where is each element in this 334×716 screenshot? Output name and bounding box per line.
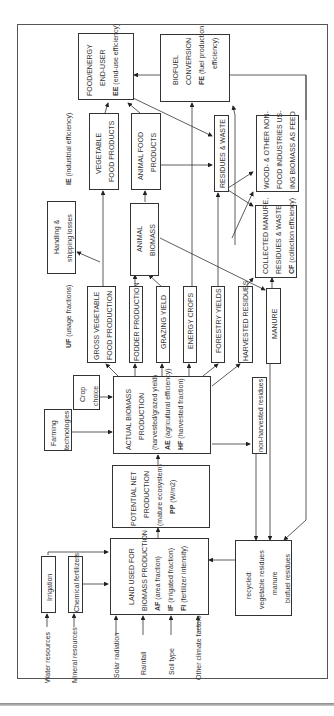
label: BIOMASS [146,224,159,256]
node-handling-losses: Handling & shipping losses [47,201,76,274]
node-manure: MANURE [266,288,281,364]
label: HARVESTED RESIDUES [239,281,252,361]
label: recycled: [242,550,255,609]
code: EE [112,87,119,96]
text: (industrial efficiency) [65,113,72,177]
input-other-climate-factors: Other climate factors [192,615,205,680]
label: RESIDUES & WASTE [272,198,285,274]
label: CONVERSION [182,26,195,85]
node-animal-food-products: ANIMAL FOOD PRODUCTS [131,113,161,190]
node-farming-technologies: Farming technologies [44,409,72,451]
label: COLLECTED MANURE, [259,198,272,274]
label: PRODUCTS [147,132,160,180]
node-crop-choice: Crop choice [73,375,100,410]
label: FOOD PRODUCTS [105,121,118,182]
label: FORESTRY YIELDS [212,288,225,353]
label: manure [268,550,281,609]
label: MANURE [268,309,281,339]
code: FE [198,76,205,85]
node-wood-industries: WOOD- & OTHER NON- FOOD INDUSTRIES US- I… [256,115,299,192]
label: WOOD- & OTHER NON- [260,110,273,189]
param: efficiency) [208,26,221,85]
code: UF [65,339,72,348]
param: (harvested fraction) [177,378,184,438]
label: ANIMAL [133,224,146,256]
param: (fuel production [198,26,205,74]
node-actual-biomass: ACTUAL BIOMASS PRODUCTION (harvested/gra… [113,376,211,454]
node-grazing-yield: GRAZING YIELD [156,286,170,363]
param: (collection efficiency) [288,198,295,263]
node-vegetable-food-products: VEGETABLE FOOD PRODUCTS [89,113,119,190]
label: shipping losses [63,214,76,262]
industrial-efficiency-label: IE (industrial efficiency) [62,113,75,185]
node-residues-waste: RESIDUES & WASTE [214,115,229,192]
node-energy-crops: ENERGY CROPS [183,286,197,363]
code: IF [167,605,174,611]
label: Chemical fertilizers [70,553,83,612]
input-mineral-resources: Mineral resources [68,627,81,683]
param: (irrigated fraction) [167,548,174,603]
code: AE [164,440,171,450]
label: Irrigation [43,574,56,601]
label: PRODUCTION [135,368,148,450]
label: FOOD INDUSTRIES US- [273,110,286,189]
label: BIOMASS PRODUCTION [138,530,151,611]
node-biofuel-conversion: BIOFUEL CONVERSION FE (fuel production e… [160,34,230,102]
code: FI [180,605,187,611]
label: ENERGY CROPS [184,293,197,349]
param: (area fraction) [154,556,161,600]
label: ANIMAL FOOD [134,132,147,180]
input-soil-type: Soil type [165,648,178,675]
label: Farming [47,411,60,450]
label: RESIDUES & WASTE [216,119,229,188]
node-potential-net-production: POTENTIAL NET PRODUCTION (mature ecosyst… [112,465,210,528]
code: AF [154,602,161,611]
label: FOOD PRODUCTION [103,291,116,360]
node-irrigation: Irrigation [41,556,56,613]
label: GROSS VEGETABLE [90,291,103,360]
label: ACTUAL BIOMASS [122,368,135,450]
label: non-harvested residues [254,379,267,452]
node-gross-vegetable: GROSS VEGETABLE FOOD PRODUCTION [87,286,116,363]
node-chemical-fertilizers: Chemical fertilizers [68,556,83,613]
node-recycled: recycled: vegetable residues manure biof… [235,540,292,616]
code: PP [169,505,176,514]
node-non-harvested-residues: non-harvested residues [252,377,267,454]
label: END-USER [96,24,109,96]
node-land-used: LAND USED FOR BIOMASS PRODUCTION AF (are… [110,538,209,615]
label: POTENTIAL NET [127,464,140,526]
label: VEGETABLE [92,121,105,182]
usage-fractions-label: UF (usage fractions) [62,285,75,348]
label: PRODUCTION [140,464,153,526]
code: CF [288,265,295,274]
code: IE [65,178,72,185]
label: technologies [60,411,73,450]
param: (W/m2) [169,480,176,503]
text: (usage fractions) [65,285,72,337]
label: GRAZING YIELD [157,295,170,349]
label: vegetable residues [255,550,268,609]
label: FOOD/ENERGY [83,24,96,96]
label: Handling & [50,214,63,262]
node-forestry-yields: FORESTRY YIELDS [211,286,225,363]
node-harvested-residues: HARVESTED RESIDUES [238,286,253,363]
input-solar-radiation: Solar radiation [110,633,123,678]
label: Crop [76,386,89,406]
label: (harvested/grazed yield) [148,368,161,450]
code: HF [177,441,184,450]
label: (mature ecosystem) [153,464,166,526]
param: (agricultural efficiency) [164,368,171,438]
node-end-user: FOOD/ENERGY END-USER EE (end-use efficie… [78,33,134,100]
input-water-resources: Water resources [41,632,54,683]
node-fodder-production: FODDER PRODUCTION [129,286,143,363]
label: FODDER PRODUCTION [130,282,143,361]
label: ING BIOMASS AS FEED [286,110,299,189]
node-collected-manure: COLLECTED MANURE, RESIDUES & WASTE CF (c… [255,205,297,278]
node-animal-biomass: ANIMAL BIOMASS [130,203,159,276]
label: biofuel residues [281,550,294,609]
param: (end-use efficiency) [112,24,119,85]
param: (fertilizer intensity) [180,546,187,603]
input-rainfall: Rainfall [137,652,150,675]
label: choice [89,386,102,406]
label: LAND USED FOR [125,530,138,611]
